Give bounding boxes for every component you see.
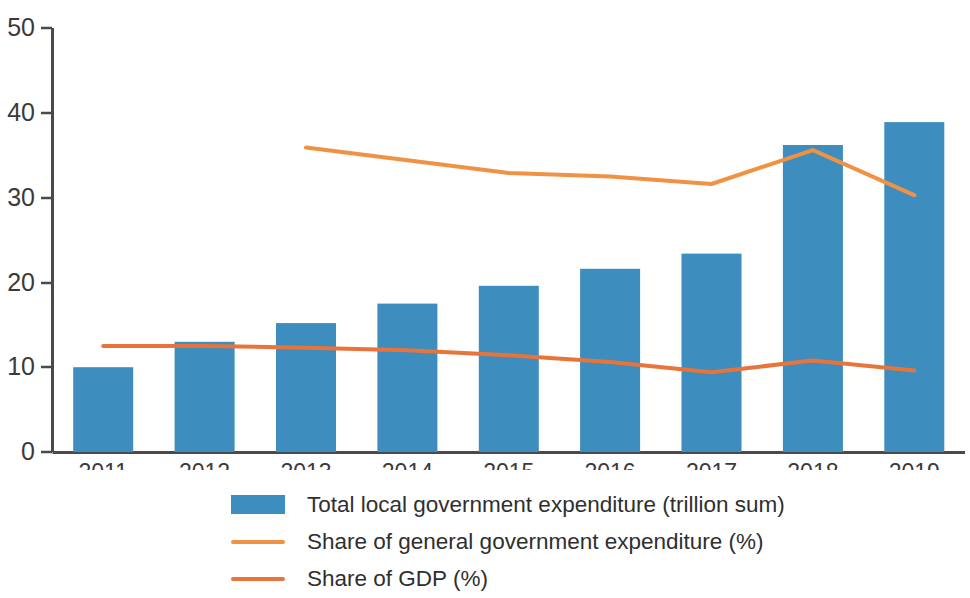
x-tick-label: 2013 xyxy=(280,459,331,470)
bar xyxy=(276,323,336,452)
bar xyxy=(884,122,944,452)
x-tick-label: 2012 xyxy=(179,459,230,470)
bar xyxy=(479,286,539,452)
bar xyxy=(175,342,235,452)
x-tick-label: 2017 xyxy=(686,459,737,470)
y-tick-label: 0 xyxy=(21,437,35,465)
x-tick-label: 2018 xyxy=(787,459,838,470)
x-tick-label: 2019 xyxy=(889,459,940,470)
bar xyxy=(377,304,437,452)
y-tick-label: 20 xyxy=(7,268,35,296)
x-tick-label: 2016 xyxy=(585,459,636,470)
x-tick-label: 2011 xyxy=(78,459,127,470)
legend-item-total-local-government-expenditure[interactable]: Total local government expenditure (tril… xyxy=(0,486,970,523)
y-tick-label: 40 xyxy=(7,98,35,126)
legend-item-label: Share of GDP (%) xyxy=(307,566,488,592)
x-tick-label: 2014 xyxy=(382,459,433,470)
legend-bar-swatch-icon xyxy=(231,495,285,514)
y-axis-ticks xyxy=(41,28,52,452)
y-tick-label: 50 xyxy=(7,13,35,41)
chart-plot-area: 50 40 30 20 10 0 20112012201320142015201… xyxy=(0,0,970,470)
legend-item-share-of-general-government-expenditure[interactable]: Share of general government expenditure … xyxy=(0,523,970,560)
legend-item-share-of-gdp[interactable]: Share of GDP (%) xyxy=(0,560,970,597)
bar xyxy=(783,145,843,452)
legend-item-label: Total local government expenditure (tril… xyxy=(307,492,785,518)
legend-line-swatch-icon xyxy=(231,540,285,544)
x-tick-label: 2015 xyxy=(483,459,534,470)
legend-line-swatch-icon xyxy=(231,577,285,581)
y-tick-label: 10 xyxy=(7,352,35,380)
chart-svg: 50 40 30 20 10 0 20112012201320142015201… xyxy=(0,0,970,470)
bar xyxy=(682,254,742,452)
x-axis-labels: 201120122013201420152016201720182019 xyxy=(78,459,939,470)
legend-item-label: Share of general government expenditure … xyxy=(307,529,764,555)
chart-screenshot: 50 40 30 20 10 0 20112012201320142015201… xyxy=(0,0,970,598)
chart-legend: Total local government expenditure (tril… xyxy=(0,486,970,597)
y-tick-label: 30 xyxy=(7,183,35,211)
bar xyxy=(73,367,133,452)
y-axis-labels: 50 40 30 20 10 0 xyxy=(7,13,35,465)
